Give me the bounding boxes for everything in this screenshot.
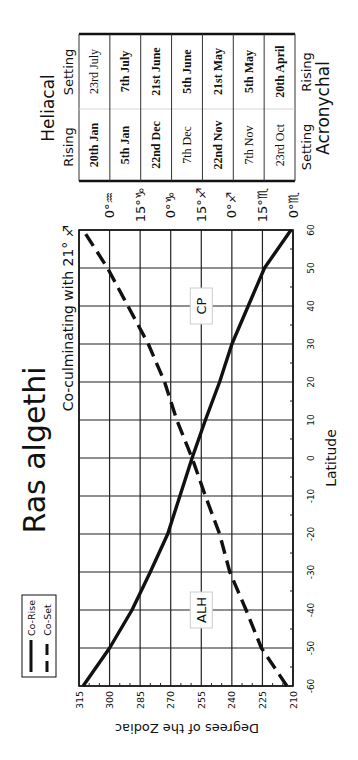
plot-area: ALHCP	[79, 230, 293, 686]
latitude-tick-label: 10	[306, 414, 316, 426]
zodiac-label: 0°♏	[286, 192, 301, 218]
latitude-tick-label: -10	[306, 488, 316, 503]
table-cell-setting: 5th June	[180, 49, 194, 94]
table-cells: 23rd July20th Jan7th July5th Jan21st Jun…	[87, 45, 286, 170]
latitude-tick-label: -60	[306, 678, 316, 693]
latitude-tick-label: 0	[306, 455, 316, 461]
table-cell-setting: 21st June	[149, 47, 163, 96]
zodiac-label: 15°♏	[255, 188, 270, 223]
grid-lines	[79, 230, 293, 686]
acronychal-setting-header: Setting	[299, 124, 314, 171]
table-cell-rising: 23rd Oct	[273, 123, 287, 166]
table-cell-setting: 23rd July	[87, 49, 101, 94]
table-cell-rising: 22nd Dec	[149, 120, 163, 168]
annotation-label-cp: CP	[194, 297, 209, 314]
acronychal-header: Acronychal	[313, 61, 333, 155]
degree-tick-label: 315	[74, 691, 85, 709]
table-cell-rising: 7th Nov	[242, 126, 256, 165]
latitude-axis-label: Latitude	[323, 429, 339, 487]
latitude-tick-label: 20	[306, 376, 316, 388]
acronychal-rising-header: Rising	[299, 52, 314, 92]
latitude-tick-label: 40	[306, 300, 316, 312]
degree-tick-label: 240	[226, 691, 237, 709]
degree-tick-label: 210	[288, 691, 299, 709]
latitude-tick-label: -30	[306, 564, 316, 579]
annotation-label-alh: ALH	[194, 597, 209, 623]
chart-title: Ras algethi	[17, 366, 52, 533]
table-cell-setting: 21st May	[211, 48, 225, 95]
degree-tick-label: 270	[165, 691, 176, 709]
zodiac-label: 0°♒	[102, 192, 117, 218]
dates-table: Heliacal Setting Rising 23rd July20th Ja…	[38, 34, 333, 181]
degree-tick-label: 300	[104, 691, 115, 709]
latitude-tick-label: 30	[306, 338, 316, 350]
legend-co-rise-label: Co-Rise	[26, 600, 37, 636]
legend-co-set-label: Co-Set	[42, 604, 53, 636]
degrees-axis-label: Degrees of the Zodiac	[115, 721, 259, 736]
degree-tick-label: 255	[196, 691, 207, 709]
table-cell-setting: 5th May	[242, 50, 256, 93]
table-cell-rising: 22nd Nov	[211, 120, 225, 169]
table-cell-setting: 7th July	[118, 51, 132, 93]
heliacal-header: Heliacal	[38, 74, 58, 142]
heliacal-setting-header: Setting	[61, 49, 76, 96]
zodiac-label: 15°♐	[194, 188, 209, 223]
table-cell-rising: 5th Jan	[118, 126, 132, 165]
degree-tick-label: 225	[257, 691, 268, 709]
latitude-tick-label: -20	[306, 526, 316, 541]
zodiac-label: 15°♑	[133, 188, 148, 223]
latitude-tick-labels: -60-50-40-30-20-100102030405060	[306, 224, 316, 693]
zodiac-label: 0°♑	[163, 192, 178, 218]
legend: Co-Rise Co-Set	[22, 595, 56, 677]
degree-tick-labels: 315300285270255240225210	[74, 691, 299, 709]
table-cell-rising: 7th Dec	[180, 126, 194, 164]
latitude-tick-label: -50	[306, 640, 316, 655]
zodiac-sign-labels: 0°♒15°♑0°♑15°♐0°♐15°♏0°♏	[102, 188, 300, 223]
latitude-tick-label: 50	[306, 262, 316, 274]
chart-svg: Heliacal Setting Rising 23rd July20th Ja…	[0, 0, 358, 760]
degree-tick-label: 285	[135, 691, 146, 709]
zodiac-label: 0°♐	[224, 192, 239, 218]
table-cell-setting: 20th April	[273, 45, 287, 98]
heliacal-rising-header: Rising	[61, 127, 76, 167]
chart-figure: Heliacal Setting Rising 23rd July20th Ja…	[0, 0, 358, 760]
latitude-tick-label: -40	[306, 602, 316, 617]
chart-subtitle: Co-culminating with 21° ♐	[60, 225, 76, 412]
latitude-tick-label: 60	[306, 224, 316, 236]
table-cell-rising: 20th Jan	[87, 123, 101, 168]
